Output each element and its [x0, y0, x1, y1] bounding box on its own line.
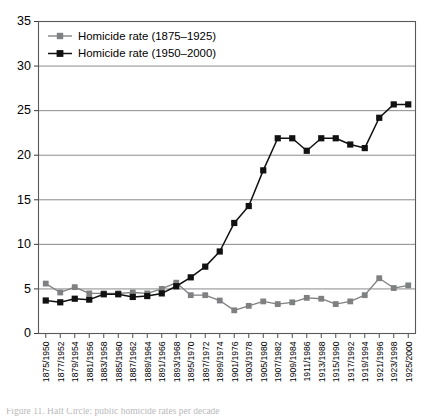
series-polyline	[46, 104, 409, 302]
x-axis-tick-label: 1883/1958	[99, 341, 109, 382]
data-point-marker	[86, 290, 92, 296]
legend-marker-swatch	[57, 33, 63, 39]
data-point-marker	[289, 135, 295, 141]
data-point-marker	[376, 275, 382, 281]
legend-entry: Homicide rate (1875–1925)	[48, 30, 216, 42]
data-point-marker	[304, 148, 310, 154]
data-point-marker	[289, 299, 295, 305]
data-point-marker	[188, 292, 194, 298]
data-point-marker	[333, 301, 339, 307]
data-point-marker	[202, 292, 208, 298]
data-point-marker	[144, 293, 150, 299]
x-axis-ticks: 1875/19501877/19521879/19541881/19561883…	[41, 334, 414, 383]
y-axis-tick-label: 20	[17, 148, 31, 162]
data-point-marker	[57, 299, 63, 305]
data-point-marker	[159, 290, 165, 296]
x-axis-tick-label: 1897/1972	[201, 341, 211, 382]
x-axis-tick-label: 1879/1954	[70, 341, 80, 382]
data-point-marker	[260, 299, 266, 305]
y-axis-tick-label: 35	[17, 14, 31, 28]
data-point-marker	[275, 135, 281, 141]
x-axis-tick-label: 1923/1998	[389, 341, 399, 382]
data-point-marker	[275, 301, 281, 307]
chart-legend: Homicide rate (1875–1925)Homicide rate (…	[48, 30, 216, 60]
data-point-marker	[231, 220, 237, 226]
x-axis-tick-label: 1911/1986	[302, 341, 312, 381]
x-axis-tick-label: 1917/1992	[346, 341, 356, 382]
data-point-marker	[43, 297, 49, 303]
x-axis-tick-label: 1921/1996	[375, 341, 385, 382]
figure-caption: Figure 11. Half Circle: public homicide …	[6, 408, 220, 416]
data-point-marker	[362, 292, 368, 298]
legend-label: Homicide rate (1875–1925)	[78, 30, 216, 42]
figure-container: 05101520253035 1875/19501877/19521879/19…	[0, 0, 432, 419]
data-point-marker	[231, 307, 237, 313]
data-point-marker	[188, 274, 194, 280]
data-point-marker	[405, 101, 411, 107]
data-point-marker	[376, 115, 382, 121]
x-axis-tick-label: 1919/1994	[360, 341, 370, 382]
x-axis-tick-label: 1903/1978	[244, 341, 254, 382]
y-axis-tick-label: 0	[24, 326, 31, 340]
data-point-marker	[130, 294, 136, 300]
plot-area-border	[39, 22, 416, 334]
data-point-marker	[217, 298, 223, 304]
legend-label: Homicide rate (1950–2000)	[78, 47, 216, 59]
data-point-marker	[72, 284, 78, 290]
x-axis-tick-label: 1915/1990	[331, 341, 341, 382]
data-point-marker	[72, 296, 78, 302]
x-axis-tick-label: 1885/1960	[114, 341, 124, 382]
x-axis-tick-label: 1889/1964	[143, 341, 153, 382]
data-point-marker	[333, 135, 339, 141]
data-point-marker	[318, 135, 324, 141]
data-point-marker	[43, 281, 49, 287]
legend-marker-swatch	[57, 50, 64, 57]
x-axis-tick-label: 1907/1982	[273, 341, 283, 382]
data-series-group	[43, 101, 412, 313]
x-axis-tick-label: 1901/1976	[230, 341, 240, 382]
data-point-marker	[304, 295, 310, 301]
data-point-marker	[347, 141, 353, 147]
data-point-marker	[202, 264, 208, 270]
x-axis-tick-label: 1895/1970	[186, 341, 196, 382]
x-axis-tick-label: 1925/2000	[404, 341, 414, 382]
x-axis-tick-label: 1893/1968	[172, 341, 182, 382]
legend-entry: Homicide rate (1950–2000)	[48, 47, 216, 59]
y-axis-tick-label: 30	[17, 59, 31, 73]
y-axis-tick-label: 15	[17, 193, 31, 207]
data-point-marker	[115, 291, 121, 297]
data-point-marker	[217, 248, 223, 254]
x-axis-tick-label: 1877/1952	[56, 341, 66, 382]
data-point-marker	[391, 101, 397, 107]
data-point-marker	[246, 303, 252, 309]
x-axis-tick-label: 1875/1950	[41, 341, 51, 382]
series-homicide-rate-1950-2000	[43, 101, 412, 305]
x-axis-tick-label: 1905/1980	[259, 341, 269, 382]
x-axis-tick-label: 1887/1962	[128, 341, 138, 382]
y-axis-tick-label: 25	[17, 103, 31, 117]
data-point-marker	[101, 291, 107, 297]
y-axis-ticks: 05101520253035	[17, 14, 38, 340]
x-axis-tick-label: 1909/1984	[288, 341, 298, 382]
homicide-rate-line-chart: 05101520253035 1875/19501877/19521879/19…	[0, 0, 432, 419]
y-axis-tick-label: 10	[17, 237, 31, 251]
y-axis-tick-label: 5	[24, 282, 31, 296]
data-point-marker	[246, 203, 252, 209]
data-point-marker	[347, 299, 353, 305]
data-point-marker	[391, 285, 397, 291]
x-axis-tick-label: 1913/1988	[317, 341, 327, 382]
x-axis-tick-label: 1891/1966	[157, 341, 167, 382]
series-homicide-rate-1875-1925	[43, 275, 411, 313]
data-point-marker	[362, 145, 368, 151]
x-axis-tick-label: 1899/1974	[215, 341, 225, 382]
data-point-marker	[57, 290, 63, 296]
data-point-marker	[318, 296, 324, 302]
data-point-marker	[86, 297, 92, 303]
data-point-marker	[173, 283, 179, 289]
series-polyline	[46, 278, 409, 310]
gridlines	[39, 66, 416, 289]
figure-caption-strip: Figure 11. Half Circle: public homicide …	[0, 408, 432, 419]
x-axis-tick-label: 1881/1956	[85, 341, 95, 382]
data-point-marker	[405, 282, 411, 288]
data-point-marker	[260, 167, 266, 173]
